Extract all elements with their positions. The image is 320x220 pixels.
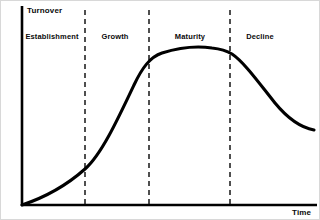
product-life-cycle-figure: Turnover Time Establishment Growth Matur… xyxy=(0,0,320,220)
stage-label-growth: Growth xyxy=(101,33,128,41)
y-axis-title: Turnover xyxy=(27,7,62,15)
x-axis-title: Time xyxy=(292,209,311,217)
stage-label-establishment: Establishment xyxy=(25,33,78,41)
life-cycle-curve xyxy=(22,47,314,205)
stage-label-maturity: Maturity xyxy=(175,33,205,41)
stage-label-decline: Decline xyxy=(246,33,274,41)
